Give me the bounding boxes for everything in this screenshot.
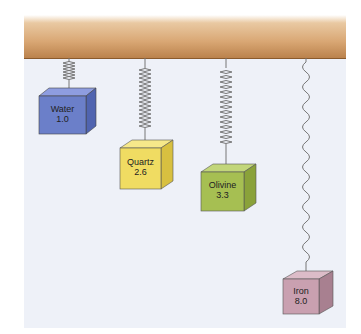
spring-iron <box>303 58 310 272</box>
springs <box>0 0 361 334</box>
spring-olivine <box>220 58 232 165</box>
label-water: Water 1.0 <box>39 104 86 124</box>
label-olivine-value: 3.3 <box>201 190 244 200</box>
spring-water <box>63 58 75 90</box>
label-iron-name: Iron <box>283 286 319 296</box>
spring-quartz <box>139 58 151 140</box>
label-olivine: Olivine 3.3 <box>201 180 244 200</box>
label-iron: Iron 8.0 <box>283 286 319 306</box>
label-iron-value: 8.0 <box>283 296 319 306</box>
label-quartz-name: Quartz <box>120 157 161 167</box>
label-quartz: Quartz 2.6 <box>120 157 161 177</box>
label-water-name: Water <box>39 104 86 114</box>
label-water-value: 1.0 <box>39 114 86 124</box>
label-olivine-name: Olivine <box>201 180 244 190</box>
label-quartz-value: 2.6 <box>120 167 161 177</box>
